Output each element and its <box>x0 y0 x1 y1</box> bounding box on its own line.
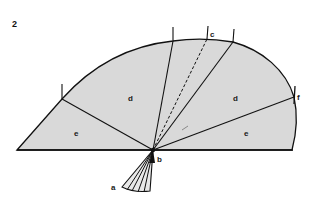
fan-diagram: d d e e b a c f <box>0 0 317 202</box>
label-e-left: e <box>74 129 79 138</box>
tick-c <box>207 26 208 39</box>
label-f: f <box>297 93 300 102</box>
label-c: c <box>210 30 215 39</box>
fan-a <box>122 150 155 192</box>
label-b: b <box>157 155 162 164</box>
label-d-right: d <box>233 94 238 103</box>
label-d-left: d <box>128 94 133 103</box>
tick-mid-right <box>233 29 234 42</box>
label-e-right: e <box>244 129 249 138</box>
label-a: a <box>111 183 116 192</box>
